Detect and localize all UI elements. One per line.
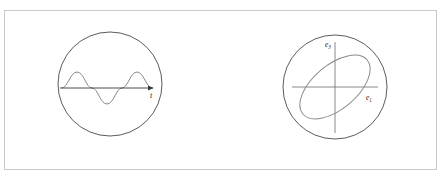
sine-wave-panel: t	[58, 32, 162, 136]
ellipse-panel: e1 e3	[283, 35, 387, 139]
e1-axis-label: e1	[366, 93, 372, 103]
e1-axis-label-subscript: 1	[369, 97, 372, 103]
e3-axis-label-subscript: 3	[328, 44, 331, 50]
figure-root: t e1 e3	[0, 0, 447, 182]
sine-panel-circle	[58, 32, 162, 136]
figure-canvas: t e1 e3	[0, 0, 447, 182]
time-axis-label: t	[150, 91, 153, 100]
e3-axis-label: e3	[325, 40, 331, 50]
